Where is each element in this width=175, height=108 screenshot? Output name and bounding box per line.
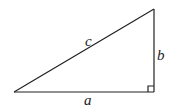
triangle (14, 9, 154, 92)
right-triangle-diagram: c b a (0, 0, 175, 108)
right-angle-marker (148, 86, 154, 92)
label-b: b (157, 47, 165, 63)
label-a: a (84, 92, 92, 108)
label-c: c (85, 33, 92, 49)
side-c-line (14, 9, 154, 92)
